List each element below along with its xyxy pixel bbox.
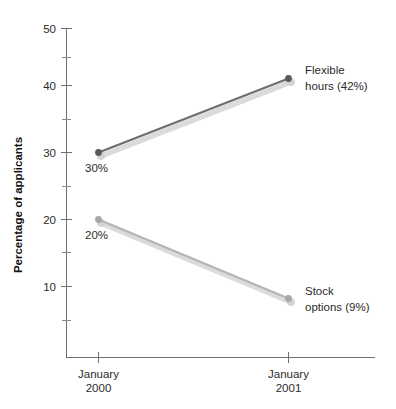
- flexible-hours-start-value-label: 30%: [85, 162, 108, 174]
- x-tick-label-2001-month: January: [268, 368, 309, 380]
- stock-options-point-2000: [95, 216, 102, 223]
- stock-options-shadow: [101, 223, 291, 302]
- y-tick-label-30: 30: [43, 147, 56, 159]
- stock-options-label-line2: options (9%): [305, 301, 370, 313]
- series-label-stock-options: Stock options (9%): [305, 285, 370, 313]
- y-tick-label-20: 20: [43, 214, 56, 226]
- y-axis-tick-labels: 50 40 30 20 10: [43, 23, 56, 293]
- x-tick-label-2001-year: 2001: [276, 382, 302, 394]
- series-stock-options: [95, 216, 295, 306]
- stock-options-label-line1: Stock: [305, 285, 334, 297]
- line-chart: 50 40 30 20 10 Percentage of applicants …: [0, 0, 396, 409]
- series-label-flexible-hours: Flexible hours (42%): [305, 64, 368, 92]
- stock-options-point-2001: [285, 295, 292, 302]
- x-axis-tick-labels: January 2000 January 2001: [78, 368, 309, 394]
- flexible-hours-point-2001: [285, 75, 292, 82]
- y-tick-label-40: 40: [43, 80, 56, 92]
- series-flexible-hours: [95, 75, 295, 160]
- y-tick-label-50: 50: [43, 23, 56, 35]
- point-value-labels: 30% 20%: [85, 162, 108, 241]
- x-tick-label-2000-year: 2000: [86, 382, 112, 394]
- x-tick-label-2000-month: January: [78, 368, 119, 380]
- flexible-hours-shadow: [101, 82, 291, 156]
- chart-canvas: 50 40 30 20 10 Percentage of applicants …: [0, 0, 396, 409]
- y-tick-label-10: 10: [43, 281, 56, 293]
- y-axis-title: Percentage of applicants: [12, 137, 24, 273]
- stock-options-line: [99, 220, 289, 299]
- flexible-hours-label-line1: Flexible: [305, 64, 345, 76]
- stock-options-start-value-label: 20%: [85, 229, 108, 241]
- flexible-hours-label-line2: hours (42%): [305, 80, 368, 92]
- flexible-hours-line: [99, 79, 289, 153]
- flexible-hours-point-2000: [95, 149, 102, 156]
